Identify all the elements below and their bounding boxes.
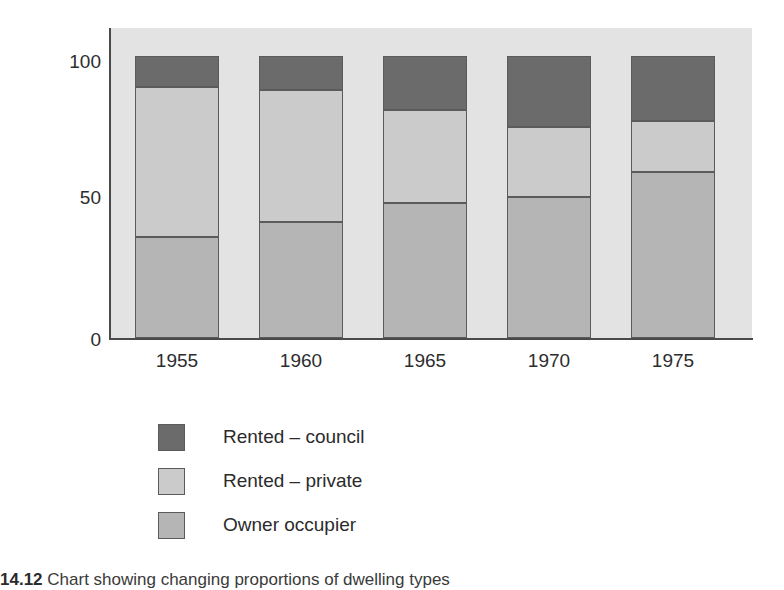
y-tick-label-100: 100 (0, 52, 101, 71)
figure-caption-number: 14.12 (0, 570, 43, 589)
figure-caption: 14.12 Chart showing changing proportions… (0, 570, 784, 590)
legend-swatch-icon-rented-private (158, 468, 185, 495)
figure-caption-text: Chart showing changing proportions of dw… (47, 570, 450, 589)
y-axis-tick-labels: 100 50 0 (0, 0, 101, 590)
bar-series-container (111, 28, 752, 338)
legend-item-rented-council: Rented – council (158, 415, 498, 459)
bar-segment-rented-council-1960 (259, 56, 343, 90)
bar-group-1965 (383, 28, 467, 338)
bar-group-1955 (135, 28, 219, 338)
bar-segment-rented-council-1975 (631, 56, 715, 121)
bar-segment-rented-private-1960 (259, 90, 343, 222)
legend-item-owner-occupier: Owner occupier (158, 503, 498, 547)
bar-segment-owner-occupier-1960 (259, 222, 343, 338)
bar-segment-rented-council-1955 (135, 56, 219, 87)
x-axis-line (109, 338, 753, 340)
legend-label-rented-council: Rented – council (223, 426, 365, 448)
bar-segment-owner-occupier-1970 (507, 197, 591, 338)
legend-swatch-icon-rented-council (158, 424, 185, 451)
bar-segment-owner-occupier-1975 (631, 172, 715, 338)
bar-segment-rented-private-1955 (135, 87, 219, 236)
x-tick-label-1975: 1975 (631, 350, 715, 372)
y-tick-label-50: 50 (0, 188, 101, 207)
legend-label-owner-occupier: Owner occupier (223, 514, 356, 536)
bar-segment-rented-private-1970 (507, 127, 591, 197)
chart-legend: Rented – council Rented – private Owner … (158, 415, 498, 547)
bar-group-1960 (259, 28, 343, 338)
figure-stacked-bar-chart: Percentage 100 50 0 1955 1960 1965 1970 … (0, 0, 784, 590)
bar-group-1975 (631, 28, 715, 338)
bar-segment-rented-private-1965 (383, 110, 467, 203)
x-tick-label-1955: 1955 (135, 350, 219, 372)
legend-swatch-icon-owner-occupier (158, 512, 185, 539)
bar-group-1970 (507, 28, 591, 338)
bar-segment-rented-council-1965 (383, 56, 467, 110)
y-tick-label-0: 0 (0, 330, 101, 349)
legend-item-rented-private: Rented – private (158, 459, 498, 503)
bar-segment-rented-private-1975 (631, 121, 715, 172)
x-axis-tick-labels: 1955 1960 1965 1970 1975 (111, 350, 752, 376)
x-tick-label-1970: 1970 (507, 350, 591, 372)
bar-segment-owner-occupier-1955 (135, 237, 219, 338)
x-tick-label-1965: 1965 (383, 350, 467, 372)
bar-segment-rented-council-1970 (507, 56, 591, 126)
legend-label-rented-private: Rented – private (223, 470, 362, 492)
bar-segment-owner-occupier-1965 (383, 203, 467, 338)
x-tick-label-1960: 1960 (259, 350, 343, 372)
